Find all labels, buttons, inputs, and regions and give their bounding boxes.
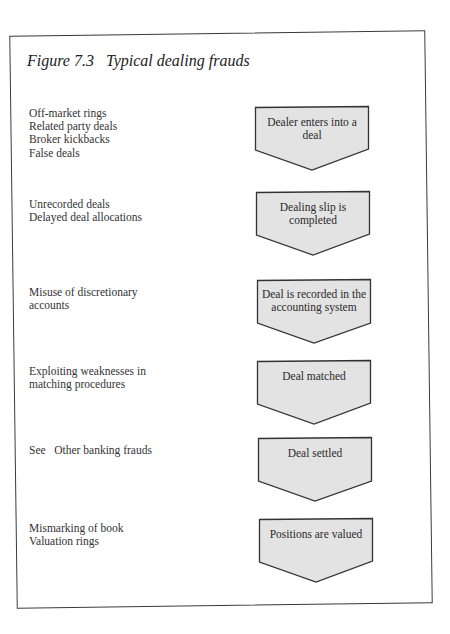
stage-dealer-enters-deal: Dealer enters into a deal — [255, 107, 369, 171]
stage-deal-matched: Deal matched — [257, 361, 371, 425]
fraud-item: Exploiting weaknesses in — [29, 365, 146, 378]
fraud-item: Delayed deal allocations — [29, 211, 142, 224]
figure-title: Figure 7.3 Typical dealing frauds — [27, 52, 250, 70]
stage-dealing-slip-completed: Dealing slip is completed — [256, 192, 370, 256]
fraud-item: matching procedures — [29, 378, 146, 391]
stage-positions-valued: Positions are valued — [259, 519, 373, 583]
fraud-list-deal-settled: See Other banking frauds — [29, 444, 152, 457]
fraud-list-deal-matched: Exploiting weaknesses in matching proced… — [29, 365, 146, 391]
fraud-item: Off-market rings — [29, 107, 117, 120]
stage-label: Positions are valued — [263, 528, 369, 541]
stage-deal-settled: Deal settled — [258, 438, 372, 502]
fraud-list-positions-valued: Mismarking of book Valuation rings — [29, 522, 124, 548]
stage-deal-recorded: Deal is recorded in the accounting syste… — [257, 280, 371, 344]
fraud-list-dealing-slip: Unrecorded deals Delayed deal allocation… — [29, 198, 142, 224]
stage-label: Dealing slip is completed — [260, 201, 366, 226]
fraud-item: Unrecorded deals — [29, 198, 142, 211]
fraud-item: Misuse of discretionary — [29, 286, 138, 299]
fraud-item: False deals — [29, 147, 117, 160]
stage-label: Deal is recorded in the accounting syste… — [261, 288, 367, 313]
fraud-item: accounts — [29, 299, 138, 312]
fraud-item: Broker kickbacks — [29, 133, 117, 146]
fraud-item: Mismarking of book — [29, 522, 124, 535]
fraud-item: Related party deals — [29, 120, 117, 133]
fraud-item: See Other banking frauds — [29, 444, 152, 457]
fraud-list-dealer-enters: Off-market rings Related party deals Bro… — [29, 107, 117, 160]
fraud-item: Valuation rings — [29, 535, 124, 548]
stage-label: Deal matched — [261, 370, 367, 383]
stage-label: Deal settled — [262, 447, 368, 460]
stage-label: Dealer enters into a deal — [259, 116, 365, 141]
fraud-list-deal-recorded: Misuse of discretionary accounts — [29, 286, 138, 312]
